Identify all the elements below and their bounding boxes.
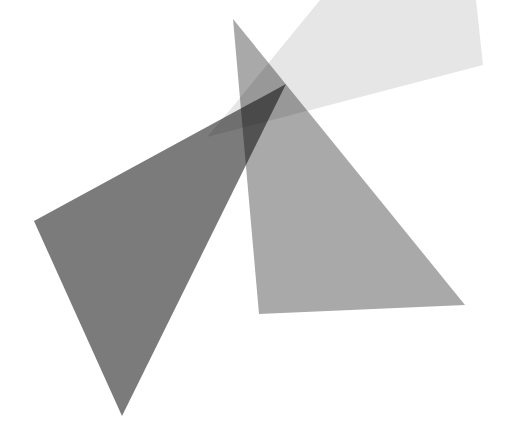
shape-canvas: [0, 0, 519, 432]
shapes-svg: [0, 0, 519, 432]
dark-triangle: [34, 84, 286, 416]
